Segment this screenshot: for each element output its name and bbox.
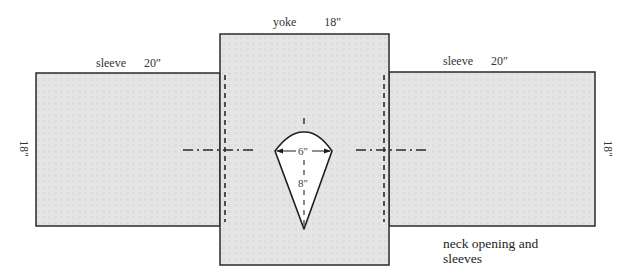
yoke-name: yoke (273, 15, 296, 29)
neck-width-label: 6″ (298, 146, 308, 157)
right-sleeve-width: 20″ (491, 54, 508, 68)
left-sleeve-label: sleeve 20″ (96, 57, 161, 69)
figure-caption: neck opening and sleeves (443, 236, 538, 266)
left-sleeve-name: sleeve (96, 56, 126, 70)
left-sleeve-height: 18″ (17, 141, 29, 157)
left-sleeve-width: 20″ (144, 56, 161, 70)
neck-depth-label: 8″ (298, 178, 308, 189)
right-sleeve-label: sleeve 20″ (443, 55, 508, 67)
yoke-label: yoke 18″ (273, 16, 341, 28)
right-sleeve-piece (389, 72, 595, 226)
right-sleeve-name: sleeve (443, 54, 473, 68)
caption-line-2: sleeves (443, 251, 538, 266)
yoke-width: 18″ (324, 15, 341, 29)
caption-line-1: neck opening and (443, 236, 538, 251)
right-sleeve-height: 18″ (601, 141, 613, 157)
